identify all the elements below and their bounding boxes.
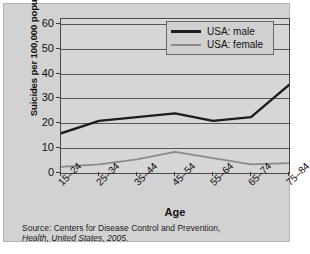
y-axis-tick-label: 20 xyxy=(28,118,54,126)
chart-legend: USA: male USA: female xyxy=(166,21,274,55)
y-axis-tick-label: 10 xyxy=(28,143,54,151)
legend-swatch-male xyxy=(171,30,201,33)
y-axis-tick-label: 50 xyxy=(28,44,54,52)
source-caption: Source: Centers for Disease Control and … xyxy=(22,223,272,243)
source-line-1: Source: Centers for Disease Control and … xyxy=(22,223,272,233)
y-axis-tick-label: 30 xyxy=(28,93,54,101)
legend-item-female: USA: female xyxy=(171,38,269,51)
legend-swatch-female xyxy=(171,44,201,46)
x-axis-title: Age xyxy=(60,206,290,218)
legend-label-male: USA: male xyxy=(207,26,255,37)
y-axis-tick-label: 40 xyxy=(28,69,54,77)
series-line-usa-male xyxy=(61,85,289,133)
chart-figure: Suicides per 100,000 population 01020304… xyxy=(3,3,290,242)
source-line-2: Health, United States, 2005. xyxy=(22,233,272,243)
series-line-usa-female xyxy=(61,152,289,167)
y-axis-tick-label: 0 xyxy=(28,168,54,176)
y-axis-tick-label: 60 xyxy=(28,19,54,27)
legend-item-male: USA: male xyxy=(171,25,269,38)
legend-label-female: USA: female xyxy=(207,39,263,50)
